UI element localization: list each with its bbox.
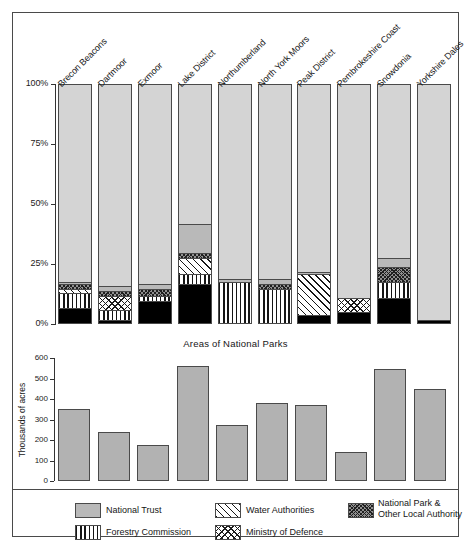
acres-bar[interactable] [335,452,367,481]
stacked-segment-private [259,85,291,280]
stacked-bar[interactable] [138,84,172,324]
stacked-y-tick [51,144,55,145]
legend-swatch-water [215,503,241,518]
stacked-segment-other [139,302,171,323]
stacked-bar[interactable] [258,84,292,324]
legend-divider [12,489,459,490]
stacked-segment-forestry [99,311,131,321]
stacked-segment-other [179,285,211,323]
stacked-segment-forestry [259,290,291,323]
stacked-category-label: Pembrokeshire Coast [335,22,402,89]
acres-bar[interactable] [414,389,446,481]
stacked-segment-private [338,85,370,299]
legend-swatch-nt [75,503,101,518]
stacked-segment-other [378,299,410,323]
acres-y-tick [50,481,54,482]
stacked-segment-other [338,313,370,323]
stacked-y-tick-label: 25% [14,258,48,268]
acres-y-tick [50,358,54,359]
stacked-bar[interactable] [218,84,252,324]
stacked-segment-water [298,275,330,315]
acres-y-tick [50,379,54,380]
stacked-segment-private [298,85,330,273]
stacked-segment-private [418,85,450,321]
stacked-category-label: Peak District [295,47,337,89]
stacked-segment-other [59,309,91,323]
legend-swatch-mod [215,525,241,540]
stacked-bar[interactable] [377,84,411,324]
stacked-y-tick-label: 75% [14,138,48,148]
stacked-bar[interactable] [98,84,132,324]
stacked-segment-private [219,85,251,280]
acres-y-tick-label: 600 [22,353,48,362]
stacked-y-axis [55,84,56,325]
stacked-segment-private [378,85,410,259]
legend-label-line1: National Park & [378,498,462,509]
stacked-segment-private [139,85,171,285]
legend-label-mod: Ministry of Defence [246,527,323,538]
acres-bar[interactable] [177,366,209,481]
stacked-segment-np [378,268,410,282]
stacked-segment-np [139,290,171,297]
legend-label-line2: Other Local Authority [378,509,462,520]
stacked-segment-forestry [179,275,211,285]
acres-y-tick [50,440,54,441]
acres-bar[interactable] [216,425,248,481]
stacked-segment-nt [179,225,211,254]
legend-label-nt: National Trust [106,505,162,516]
acres-bar[interactable] [256,403,288,481]
acres-y-axis-title: Thousands of acres [17,380,27,460]
stacked-segment-nt [378,259,410,269]
stacked-segment-forestry [59,294,91,308]
stacked-y-tick [51,204,55,205]
stacked-y-tick-label: 50% [14,198,48,208]
stacked-y-tick [51,264,55,265]
acres-y-tick [50,399,54,400]
acres-y-tick-label: 0 [22,476,48,485]
stacked-segment-other [418,321,450,323]
legend-swatch-forestry [75,525,101,540]
legend-label-forestry: Forestry Commission [106,527,191,538]
acres-bar[interactable] [374,369,406,481]
stacked-percent-chart: 0%25%50%75%100% Brecon BeaconsDartmoorEx… [0,0,471,345]
stacked-segment-other [99,321,131,323]
stacked-segment-private [99,85,131,287]
chart-caption: Areas of National Parks [0,338,471,349]
stacked-bar[interactable] [297,84,331,324]
stacked-segment-other [298,316,330,323]
stacked-segment-private [179,85,211,225]
legend-label-water: Water Authorities [246,505,314,516]
acres-bar[interactable] [98,432,130,481]
acres-y-axis [54,358,55,481]
chart-legend: National TrustForestry CommissionWater A… [12,489,459,537]
acres-bar[interactable] [295,405,327,481]
stacked-segment-mod [338,299,370,313]
stacked-bar[interactable] [337,84,371,324]
stacked-segment-private [59,85,91,283]
stacked-bar[interactable] [178,84,212,324]
stacked-segment-forestry [219,283,251,323]
stacked-category-label: Yorkshire Dales [415,39,465,89]
acres-bar[interactable] [137,445,169,481]
stacked-y-tick-label: 0% [14,318,48,328]
stacked-bar[interactable] [58,84,92,324]
acres-y-tick [50,420,54,421]
legend-label-np: National Park &Other Local Authority [378,498,462,520]
stacked-category-label: Lake District [176,48,217,89]
acres-y-tick [50,461,54,462]
stacked-segment-water [179,259,211,276]
stacked-segment-mod [99,297,131,311]
acres-bar[interactable] [58,409,90,481]
legend-swatch-np [348,503,374,518]
stacked-bar[interactable] [417,84,451,324]
stacked-y-tick [51,84,55,85]
stacked-segment-forestry [378,283,410,300]
chart-page: 0%25%50%75%100% Brecon BeaconsDartmoorEx… [0,0,471,549]
stacked-y-tick [51,324,55,325]
stacked-y-tick-label: 100% [14,78,48,88]
